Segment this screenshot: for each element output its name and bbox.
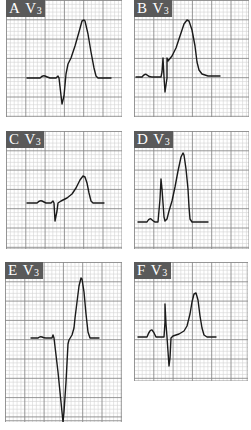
panel-letter: D [137, 131, 148, 147]
ecg-grid-and-trace [6, 0, 122, 117]
grid-major-lines [6, 131, 122, 249]
panel-letter: C [9, 131, 20, 147]
panel-label: FV3 [134, 262, 171, 279]
grid-major-lines [6, 0, 122, 117]
lead-name: V [25, 131, 36, 147]
ecg-panel-a: AV3 [6, 0, 122, 117]
lead-number: 3 [165, 136, 171, 147]
panel-label: BV3 [134, 0, 172, 17]
lead-name: V [153, 0, 164, 16]
panel-letter: B [137, 0, 148, 16]
ecg-waveform [31, 278, 99, 422]
lead-number: 3 [162, 267, 168, 278]
panel-label: AV3 [6, 0, 45, 17]
ecg-grid-and-trace [134, 131, 249, 249]
lead-number: 3 [164, 5, 170, 16]
lead-number: 3 [37, 5, 43, 16]
panel-letter: E [8, 262, 18, 278]
ecg-waveform [27, 176, 104, 221]
lead-name: V [25, 0, 36, 16]
grid-major-lines [5, 262, 122, 422]
ecg-panel-b: BV3 [134, 0, 249, 117]
panel-label: EV3 [5, 262, 43, 279]
grid-major-lines [134, 0, 249, 117]
lead-name: V [153, 131, 164, 147]
panel-letter: A [9, 0, 20, 16]
ecg-panel-e: EV3 [5, 262, 122, 422]
panel-letter: F [137, 262, 146, 278]
ecg-grid-and-trace [134, 262, 248, 381]
ecg-waveform [136, 20, 220, 92]
panel-label: CV3 [6, 131, 44, 148]
ecg-grid-and-trace [134, 0, 249, 117]
grid-minor-lines [134, 131, 249, 249]
lead-number: 3 [34, 267, 40, 278]
panel-label: DV3 [134, 131, 173, 148]
lead-name: V [23, 262, 34, 278]
ecg-panel-f: FV3 [134, 262, 248, 381]
ecg-panel-d: DV3 [134, 131, 249, 249]
lead-number: 3 [36, 136, 42, 147]
lead-name: V [151, 262, 162, 278]
ecg-panel-c: CV3 [6, 131, 122, 249]
ecg-grid-and-trace [5, 262, 122, 422]
grid-major-lines [134, 131, 249, 249]
ecg-grid-and-trace [6, 131, 122, 249]
